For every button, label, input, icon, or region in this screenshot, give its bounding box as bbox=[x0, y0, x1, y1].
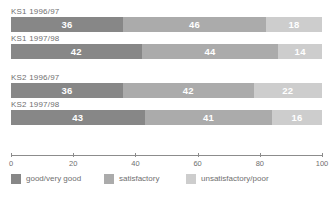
bar-segment-value: 16 bbox=[292, 113, 303, 123]
legend-item: unsatisfactory/poor bbox=[186, 174, 269, 184]
legend-swatch bbox=[104, 174, 114, 184]
bar-segment: 14 bbox=[278, 44, 322, 59]
bar-segment: 16 bbox=[272, 110, 322, 125]
x-axis-tick-label: 0 bbox=[9, 159, 13, 168]
plot-area: KS1 1996/97364618KS1 1997/98424414KS2 19… bbox=[11, 6, 322, 126]
bar-segment-value: 18 bbox=[288, 20, 299, 30]
bar-segment: 42 bbox=[11, 44, 142, 59]
bar-segment: 18 bbox=[266, 17, 322, 32]
x-axis-line bbox=[11, 155, 322, 156]
bar-segment: 42 bbox=[123, 83, 254, 98]
legend-item: good/very good bbox=[11, 174, 81, 184]
x-axis-tick bbox=[73, 153, 74, 157]
bar-segment: 43 bbox=[11, 110, 145, 125]
x-axis-tick-label: 20 bbox=[69, 159, 77, 168]
bar-segment-value: 14 bbox=[295, 47, 306, 57]
stacked-bar: 434116 bbox=[11, 110, 322, 125]
x-axis: 020406080100 bbox=[11, 155, 322, 175]
bar-segment-value: 36 bbox=[61, 86, 72, 96]
bar-row-label: KS1 1997/98 bbox=[11, 33, 322, 44]
bar-segment-value: 46 bbox=[189, 20, 200, 30]
legend-item: satisfactory bbox=[104, 174, 159, 184]
x-axis-tick bbox=[135, 153, 136, 157]
bar-segment-value: 41 bbox=[203, 113, 214, 123]
x-axis-tick bbox=[260, 153, 261, 157]
bar-segment-value: 42 bbox=[183, 86, 194, 96]
bar-row-label: KS1 1996/97 bbox=[11, 6, 322, 17]
bar-segment-value: 36 bbox=[61, 20, 72, 30]
bar-segment: 46 bbox=[123, 17, 266, 32]
bar-row-label: KS2 1997/98 bbox=[11, 99, 322, 110]
bar-segment-value: 42 bbox=[71, 47, 82, 57]
x-axis-tick bbox=[11, 153, 12, 157]
bar-segment-value: 44 bbox=[204, 47, 215, 57]
legend-label: satisfactory bbox=[119, 174, 159, 184]
x-axis-tick bbox=[198, 153, 199, 157]
bar-group: KS2 1996/97364222KS2 1997/98434116 bbox=[11, 72, 322, 125]
legend-swatch bbox=[186, 174, 196, 184]
bar-segment: 44 bbox=[142, 44, 279, 59]
bar-group: KS1 1996/97364618KS1 1997/98424414 bbox=[11, 6, 322, 59]
bar-segment: 41 bbox=[145, 110, 273, 125]
legend-swatch bbox=[11, 174, 21, 184]
bar-segment: 36 bbox=[11, 17, 123, 32]
x-axis-tick-label: 100 bbox=[316, 159, 329, 168]
x-axis-tick-label: 40 bbox=[131, 159, 139, 168]
x-axis-tick-label: 80 bbox=[256, 159, 264, 168]
legend-label: unsatisfactory/poor bbox=[201, 174, 269, 184]
stacked-bar: 364222 bbox=[11, 83, 322, 98]
stacked-bar: 364618 bbox=[11, 17, 322, 32]
bar-segment: 22 bbox=[254, 83, 322, 98]
bar-segment-value: 22 bbox=[282, 86, 293, 96]
legend-label: good/very good bbox=[26, 174, 81, 184]
bar-segment-value: 43 bbox=[72, 113, 83, 123]
x-axis-tick bbox=[322, 153, 323, 157]
stacked-bar-chart: KS1 1996/97364618KS1 1997/98424414KS2 19… bbox=[0, 0, 334, 198]
bar-segment: 36 bbox=[11, 83, 123, 98]
stacked-bar: 424414 bbox=[11, 44, 322, 59]
bar-row-label: KS2 1996/97 bbox=[11, 72, 322, 83]
x-axis-tick-label: 60 bbox=[193, 159, 201, 168]
